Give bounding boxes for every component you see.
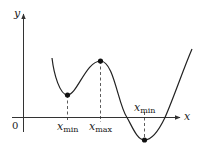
point-global-minimum [142, 137, 147, 142]
y-axis-label: y [14, 8, 20, 19]
origin-label: 0 [12, 121, 18, 131]
point-local-minimum [65, 92, 70, 97]
x-axis-label: x [184, 111, 190, 122]
label-xmin-2: xmin [134, 102, 156, 115]
label-xmin-1: xmin [57, 121, 79, 134]
point-local-maximum [98, 58, 103, 63]
label-xmax: xmax [89, 121, 112, 134]
